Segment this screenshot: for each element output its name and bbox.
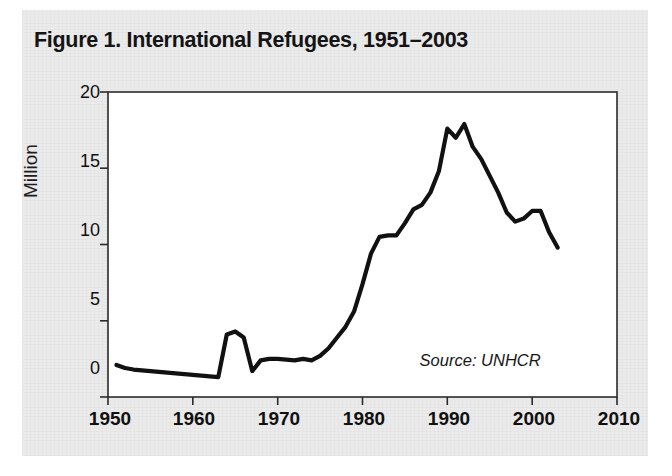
- figure-panel: Figure 1. International Refugees, 1951–2…: [22, 10, 648, 456]
- y-tick-label-5: 5: [28, 289, 100, 310]
- chart-plot-area: Million 20 15 10 5 0 1950 1960 1970 1980…: [22, 10, 648, 456]
- x-tick-marks: [108, 397, 617, 405]
- y-tick-label-15: 15: [28, 151, 100, 172]
- x-tick-label-2010: 2010: [569, 408, 669, 430]
- plot-frame: [108, 92, 617, 397]
- y-tick-label-10: 10: [28, 220, 100, 241]
- y-tick-label-20: 20: [28, 82, 100, 103]
- y-tick-label-0: 0: [28, 358, 100, 379]
- source-annotation: Source: UNHCR: [420, 351, 541, 370]
- refugees-line-chart: [22, 10, 648, 456]
- y-tick-marks: [100, 92, 108, 397]
